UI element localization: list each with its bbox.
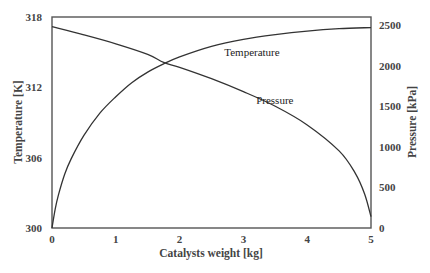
right-y-tick-label: 2000	[379, 60, 402, 72]
x-tick-label: 4	[304, 233, 310, 245]
right-y-tick-label: 1500	[379, 100, 402, 112]
left-y-axis-title: Temperature [K]	[12, 80, 25, 163]
right-y-tick-label: 500	[379, 181, 396, 193]
right-y-tick-label: 1000	[379, 141, 402, 153]
x-tick-label: 3	[241, 233, 247, 245]
x-tick-label: 0	[49, 233, 55, 245]
right-y-axis-title: Pressure [kPa]	[406, 86, 418, 158]
x-axis-title: Catalysts weight [kg]	[159, 247, 263, 260]
dual-axis-line-chart: 012345 300306312318 05001000150020002500…	[0, 0, 430, 273]
x-axis-ticks: 012345	[49, 233, 374, 245]
left-y-tick-label: 312	[26, 81, 43, 93]
pressure-annotation: Pressure	[256, 94, 293, 106]
plot-area	[52, 17, 371, 228]
right-y-tick-label: 0	[379, 222, 385, 234]
x-tick-label: 5	[368, 233, 374, 245]
x-tick-label: 2	[177, 233, 183, 245]
left-y-tick-label: 300	[26, 222, 43, 234]
right-y-axis-ticks: 05001000150020002500	[379, 19, 402, 234]
right-y-tick-label: 2500	[379, 19, 402, 31]
left-y-tick-label: 318	[26, 11, 43, 23]
left-y-tick-label: 306	[26, 152, 43, 164]
left-y-axis-ticks: 300306312318	[26, 11, 43, 234]
temperature-annotation: Temperature	[224, 46, 280, 58]
x-tick-label: 1	[113, 233, 119, 245]
